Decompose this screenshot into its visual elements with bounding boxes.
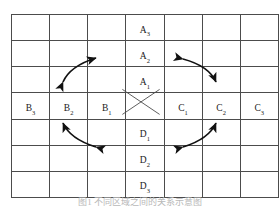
table-row: D2 <box>12 145 279 171</box>
cell-r3c6 <box>202 67 240 93</box>
table-row: D3 <box>12 171 279 197</box>
table-row: D1 <box>12 119 279 145</box>
cell-label-b1: B1 <box>88 93 126 119</box>
cell-r2c5 <box>164 41 202 67</box>
label-b3: B3 <box>26 104 36 114</box>
label-d2: D2 <box>140 156 150 166</box>
label-b2: B2 <box>64 104 74 114</box>
label-a2: A2 <box>140 52 150 62</box>
cell-r6c1 <box>12 145 50 171</box>
label-a1: A1 <box>140 78 150 88</box>
label-a3: A3 <box>140 26 150 36</box>
cell-r5c2 <box>50 119 88 145</box>
cell-r5c3 <box>88 119 126 145</box>
label-d1: D1 <box>140 130 150 140</box>
cell-r7c1 <box>12 171 50 197</box>
cell-r5c5 <box>164 119 202 145</box>
figure-caption: 图1 不同区域之间的关系示意图 <box>0 196 280 208</box>
cell-r2c6 <box>202 41 240 67</box>
cell-label-b2: B2 <box>50 93 88 119</box>
table-row: B3 B2 B1 C1 C2 C3 <box>12 93 279 119</box>
cell-r7c5 <box>164 171 202 197</box>
cell-r3c2 <box>50 67 88 93</box>
cell-label-d1: D1 <box>126 119 164 145</box>
cell-r6c6 <box>202 145 240 171</box>
cell-r1c7 <box>240 15 278 41</box>
table-row: A2 <box>12 41 279 67</box>
cell-r7c2 <box>50 171 88 197</box>
cell-r5c7 <box>240 119 278 145</box>
label-b1: B1 <box>102 104 112 114</box>
label-c2: C2 <box>216 104 226 114</box>
cell-label-c3: C3 <box>240 93 278 119</box>
cell-r1c2 <box>50 15 88 41</box>
cell-label-d2: D2 <box>126 145 164 171</box>
cell-label-a1: A1 <box>126 67 164 93</box>
cell-r2c1 <box>12 41 50 67</box>
cell-r3c5 <box>164 67 202 93</box>
cell-r3c1 <box>12 67 50 93</box>
table-row: A1 <box>12 67 279 93</box>
cell-r6c3 <box>88 145 126 171</box>
cell-r6c2 <box>50 145 88 171</box>
cell-label-a3: A3 <box>126 15 164 41</box>
table-row: A3 <box>12 15 279 41</box>
cell-r1c1 <box>12 15 50 41</box>
label-c1: C1 <box>178 104 188 114</box>
grid-container: A3 A2 <box>11 14 271 190</box>
cell-r6c5 <box>164 145 202 171</box>
relationship-grid: A3 A2 <box>11 14 279 198</box>
cell-label-a2: A2 <box>126 41 164 67</box>
cell-r3c7 <box>240 67 278 93</box>
cell-r3c3 <box>88 67 126 93</box>
cell-label-b3: B3 <box>12 93 50 119</box>
cell-r7c7 <box>240 171 278 197</box>
cell-r1c3 <box>88 15 126 41</box>
cell-r7c3 <box>88 171 126 197</box>
cell-r5c1 <box>12 119 50 145</box>
cell-r7c6 <box>202 171 240 197</box>
cell-r2c2 <box>50 41 88 67</box>
cell-r6c7 <box>240 145 278 171</box>
cell-r2c3 <box>88 41 126 67</box>
cell-center-cross <box>126 93 164 119</box>
figure-root: A3 A2 <box>0 0 280 208</box>
cell-r1c6 <box>202 15 240 41</box>
cell-label-d3: D3 <box>126 171 164 197</box>
cell-label-c2: C2 <box>202 93 240 119</box>
cell-r1c5 <box>164 15 202 41</box>
label-c3: C3 <box>254 104 264 114</box>
cell-r5c6 <box>202 119 240 145</box>
label-d3: D3 <box>140 182 150 192</box>
cell-label-c1: C1 <box>164 93 202 119</box>
cell-r2c7 <box>240 41 278 67</box>
